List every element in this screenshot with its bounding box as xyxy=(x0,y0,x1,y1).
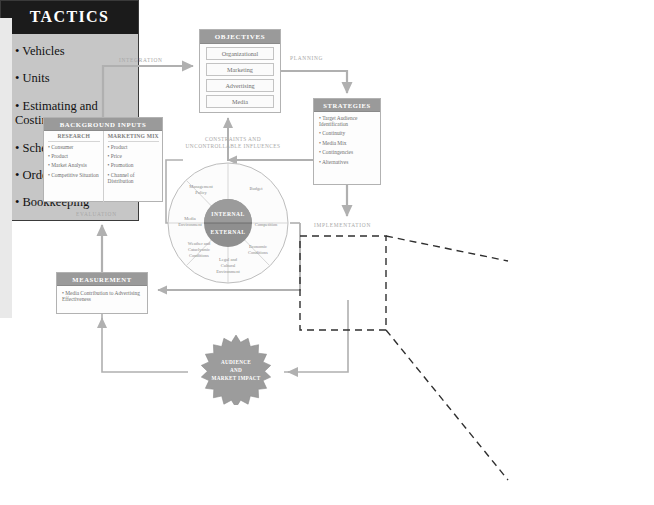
research-list: Consumer Product Market Analysis Competi… xyxy=(48,144,100,178)
connector-lines xyxy=(0,0,654,505)
measurement-title: MEASUREMENT xyxy=(57,273,147,286)
callout-leader-bottom xyxy=(386,330,508,480)
objectives-item-organizational: Organizational xyxy=(206,47,274,60)
flow-label-planning: PLANNING xyxy=(290,55,323,61)
list-item: Competitive Situation xyxy=(48,172,100,178)
wheel-segment-weather-l3: Conditions xyxy=(189,253,209,258)
strategies-list: Target Audience Identification Continuit… xyxy=(319,115,376,165)
list-item: Alternatives xyxy=(319,159,376,165)
wheel-segment-media-l2: Environment xyxy=(178,222,202,227)
background-inputs-title: BACKGROUND INPUTS xyxy=(44,118,162,131)
flow-label-integration: INTEGRATION xyxy=(119,57,163,63)
objectives-box: OBJECTIVES Organizational Marketing Adve… xyxy=(199,29,281,113)
diagram-canvas: OBJECTIVES Organizational Marketing Adve… xyxy=(0,0,654,505)
wheel-core-external: EXTERNAL xyxy=(210,229,245,235)
list-item: Consumer xyxy=(48,144,100,150)
flow-label-implementation: IMPLEMENTATION xyxy=(314,222,371,228)
list-item: Target Audience Identification xyxy=(319,115,376,127)
star-line-1: AUDIENCE xyxy=(221,359,251,365)
wheel-segment-legal-l2: Cultural xyxy=(221,263,236,268)
constraints-caption-line2: UNCONTROLLABLE INFLUENCES xyxy=(180,143,286,150)
wheel-segment-economic-l1: Economic xyxy=(249,244,267,249)
arrow-integration xyxy=(103,66,193,117)
line-measurement-star-left xyxy=(102,314,188,372)
background-inputs-columns: RESEARCH Consumer Product Market Analysi… xyxy=(44,131,162,202)
research-header: RESEARCH xyxy=(48,133,100,142)
list-item: Channel of Distribution xyxy=(108,172,160,184)
objectives-items: Organizational Marketing Advertising Med… xyxy=(200,44,280,108)
marketing-mix-list: Product Price Promotion Channel of Distr… xyxy=(108,144,160,184)
line-star-right xyxy=(284,300,348,372)
wheel-segment-media-l1: Media xyxy=(184,216,196,221)
list-item: Product xyxy=(48,153,100,159)
wheel-segment-weather-l1: Weather and xyxy=(188,241,211,246)
wheel-segment-management-policy-l2: Policy xyxy=(195,190,207,195)
wheel-segment-management-policy-l1: Management xyxy=(189,184,213,189)
marketing-mix-column: MARKETING MIX Product Price Promotion Ch… xyxy=(103,131,163,202)
list-item: Promotion xyxy=(108,162,160,168)
constraints-wheel: INTERNAL EXTERNAL Management Policy Budg… xyxy=(166,161,290,285)
marketing-mix-header: MARKETING MIX xyxy=(108,133,160,142)
flow-label-evaluation: EVALUATION xyxy=(76,211,117,217)
star-line-2: AND xyxy=(230,367,242,373)
objectives-item-marketing: Marketing xyxy=(206,63,274,76)
objectives-item-media: Media xyxy=(206,95,274,108)
audience-impact-star: AUDIENCE AND MARKET IMPACT xyxy=(190,333,282,405)
measurement-list: Media Contribution to Advertising Effect… xyxy=(62,290,143,302)
strategies-title: STRATEGIES xyxy=(314,99,380,112)
wheel-core-internal: INTERNAL xyxy=(211,211,245,217)
measurement-box: MEASUREMENT Media Contribution to Advert… xyxy=(56,272,148,314)
wheel-segment-legal-l1: Legal and xyxy=(219,257,238,262)
list-item: Continuity xyxy=(319,130,376,136)
wheel-segment-budget: Budget xyxy=(250,186,264,191)
measurement-items: Media Contribution to Advertising Effect… xyxy=(57,286,147,302)
constraints-caption: CONSTRAINTS AND UNCONTROLLABLE INFLUENCE… xyxy=(180,136,286,150)
arrow-planning xyxy=(281,71,347,93)
wheel-segment-legal-l3: Environment xyxy=(216,269,240,274)
list-item: Media Mix xyxy=(319,140,376,146)
list-item: Media Contribution to Advertising Effect… xyxy=(62,290,143,302)
strategies-box: STRATEGIES Target Audience Identificatio… xyxy=(313,98,381,185)
wheel-segment-competition: Competition xyxy=(255,222,278,227)
callout-source-frame xyxy=(300,236,386,330)
list-item: Contingencies xyxy=(319,149,376,155)
objectives-title: OBJECTIVES xyxy=(200,30,280,44)
objectives-item-advertising: Advertising xyxy=(206,79,274,92)
star-line-3: MARKET IMPACT xyxy=(211,375,260,381)
list-item: Product xyxy=(108,144,160,150)
research-column: RESEARCH Consumer Product Market Analysi… xyxy=(44,131,103,202)
wheel-segment-economic-l2: Conditions xyxy=(248,250,268,255)
list-item: Price xyxy=(108,153,160,159)
constraints-caption-line1: CONSTRAINTS AND xyxy=(180,136,286,143)
strategies-items: Target Audience Identification Continuit… xyxy=(314,112,380,165)
wheel-segment-weather-l2: Cataclysmic xyxy=(188,247,210,252)
background-inputs-box: BACKGROUND INPUTS RESEARCH Consumer Prod… xyxy=(43,117,163,202)
list-item: Market Analysis xyxy=(48,162,100,168)
callout-leader-top xyxy=(386,236,508,261)
